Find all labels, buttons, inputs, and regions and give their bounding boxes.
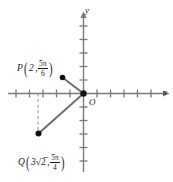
point-q-variable: Q xyxy=(18,158,25,168)
y-axis-label: y xyxy=(85,6,89,15)
point-marker-origin xyxy=(80,90,86,96)
segment-origin-to-q xyxy=(39,94,84,134)
point-p-angle-numerator: 5π xyxy=(38,60,48,68)
point-marker-p xyxy=(60,75,66,81)
point-q-radius-radical: √2̅ xyxy=(36,158,46,168)
point-p-angle-denominator: 6 xyxy=(40,70,46,78)
point-label-p: P(2,5π6) xyxy=(17,58,54,77)
point-p-angle-fraction: 5π6 xyxy=(38,60,48,77)
point-p-variable: P xyxy=(17,64,23,74)
origin-label: O xyxy=(89,98,96,107)
point-marker-q xyxy=(36,131,42,137)
polar-coordinate-figure: x y O P(2,5π6) Q(3√2̅,5π4) xyxy=(0,0,173,182)
point-q-angle-denominator: 4 xyxy=(52,164,58,172)
point-p-radius: 2 xyxy=(29,64,34,74)
point-q-angle-numerator: 5π xyxy=(50,154,60,162)
point-label-q: Q(3√2̅,5π4) xyxy=(18,152,66,171)
x-axis-label: x xyxy=(163,88,167,97)
point-q-angle-fraction: 5π4 xyxy=(50,154,60,171)
